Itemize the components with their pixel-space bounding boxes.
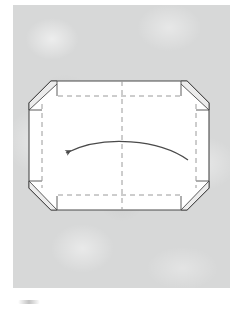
caption-mark	[18, 300, 40, 304]
paper-sheet	[29, 81, 209, 210]
origami-diagram	[0, 0, 244, 311]
